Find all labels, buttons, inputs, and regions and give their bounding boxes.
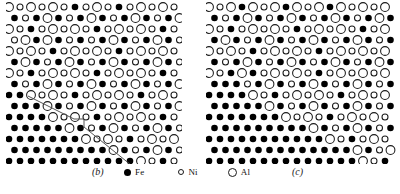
atom-al (49, 69, 58, 78)
atom-ni (223, 59, 229, 65)
atom-al (49, 113, 58, 122)
atom-al (71, 47, 80, 56)
atom-fe (17, 158, 24, 164)
atom-ni (61, 92, 67, 98)
atom-fe (299, 59, 306, 66)
atom-ni (23, 81, 29, 87)
atom-fe (143, 125, 150, 132)
atom-fe (94, 114, 101, 121)
atom-ni (138, 136, 144, 142)
atom-fe (50, 158, 57, 164)
atom-fe (316, 158, 323, 164)
atom-al (271, 3, 280, 12)
atom-fe (233, 37, 240, 44)
atom-ni (305, 4, 311, 10)
atom-fe (365, 59, 372, 66)
atom-al (353, 80, 362, 89)
atom-fe (360, 26, 367, 33)
atom-fe (77, 125, 84, 132)
atom-fe (272, 92, 279, 99)
atom-fe (211, 15, 218, 22)
atom-ni (245, 81, 251, 87)
atom-fe (228, 26, 235, 33)
atom-fe (77, 147, 84, 154)
atom-al (249, 25, 258, 34)
atom-fe (44, 125, 51, 132)
atom-ni (267, 59, 273, 65)
atom-al (381, 3, 390, 12)
atom-fe (272, 114, 279, 121)
atom-fe (299, 103, 306, 110)
atom-al (82, 135, 91, 144)
atom-al (309, 124, 318, 133)
atom-al (265, 80, 274, 89)
atom-ni (283, 70, 289, 76)
atom-fe (143, 147, 150, 154)
atom-fe (233, 15, 240, 22)
atom-ni (127, 4, 133, 10)
atom-al (6, 47, 13, 56)
atom-fe (316, 136, 323, 143)
atom-al (353, 124, 362, 133)
atom-fe (321, 147, 328, 154)
atom-fe (250, 114, 257, 121)
atom-ni (149, 70, 155, 76)
atom-fe (121, 59, 128, 66)
atom-fe (228, 92, 235, 99)
atom-al (6, 69, 13, 78)
atom-ni (39, 92, 45, 98)
atom-fe (255, 103, 262, 110)
atom-fe (121, 125, 128, 132)
atom-fe (294, 136, 301, 143)
atom-al (87, 102, 96, 111)
atom-fe (305, 158, 312, 164)
atom-fe (277, 15, 284, 22)
atom-al (159, 3, 168, 12)
atom-fe (121, 15, 128, 22)
atom-fe (83, 158, 90, 164)
atom-fe (160, 26, 167, 33)
atom-al (71, 113, 80, 122)
atom-fe (121, 147, 128, 154)
atom-al (375, 14, 384, 23)
atom-ni (338, 136, 344, 142)
atom-fe (77, 103, 84, 110)
atom-fe (17, 114, 24, 121)
atom-fe (11, 81, 18, 88)
atom-fe (222, 125, 229, 132)
atom-al (206, 25, 213, 34)
atom-fe (255, 59, 262, 66)
atom-al (159, 47, 168, 56)
atom-fe (33, 147, 40, 154)
atom-ni (171, 92, 177, 98)
atom-ni (217, 26, 223, 32)
atom-ni (349, 92, 355, 98)
atom-al (375, 58, 384, 67)
atom-fe (66, 147, 73, 154)
atom-ni (133, 125, 139, 131)
atom-fe (338, 158, 345, 164)
atom-fe (228, 114, 235, 121)
atom-ni (360, 136, 366, 142)
atom-fe (266, 147, 273, 154)
atom-fe (55, 59, 62, 66)
atom-fe (277, 81, 284, 88)
atom-fe (382, 158, 389, 164)
atom-al (87, 14, 96, 23)
atom-fe (165, 59, 172, 66)
atom-fe (343, 59, 350, 66)
atom-fe (288, 147, 295, 154)
atom-al (227, 3, 236, 12)
atom-ni (111, 103, 117, 109)
atom-ni (355, 59, 361, 65)
atom-fe (6, 136, 12, 143)
atom-fe (33, 103, 40, 110)
atom-ni (171, 48, 177, 54)
atom-ni (39, 48, 45, 54)
atom-al (137, 47, 146, 56)
atom-ni (105, 26, 111, 32)
atom-fe (211, 81, 218, 88)
atom-fe (261, 136, 268, 143)
atom-al (243, 58, 252, 67)
atom-al (153, 58, 162, 67)
